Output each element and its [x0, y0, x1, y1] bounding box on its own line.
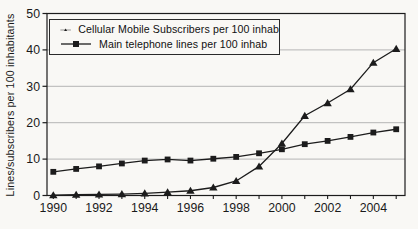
legend-item-mainlines: Main telephone lines per 100 inhab [60, 39, 279, 50]
marker-triangle [301, 112, 309, 119]
marker-square [393, 126, 399, 132]
marker-triangle [392, 45, 400, 52]
marker-square [302, 141, 308, 147]
y-tick-label: 40 [26, 43, 40, 57]
marker-square [165, 157, 171, 163]
y-tick-label: 50 [26, 7, 40, 21]
x-tick-label: 1990 [40, 201, 68, 215]
triangle-marker-icon [60, 25, 71, 35]
marker-square [119, 161, 125, 167]
marker-triangle [369, 59, 377, 66]
x-tick-label: 1998 [223, 201, 251, 215]
x-tick-label: 2004 [360, 201, 388, 215]
marker-triangle [232, 177, 240, 184]
y-tick-label: 20 [26, 116, 40, 130]
y-tick-label: 10 [26, 152, 40, 166]
x-tick-label: 2000 [268, 201, 296, 215]
series-line-0 [53, 49, 396, 195]
marker-square [233, 154, 239, 160]
marker-square [256, 150, 262, 156]
legend-item-cellular: Cellular Mobile Subscribers per 100 inha… [60, 24, 279, 35]
legend: Cellular Mobile Subscribers per 100 inha… [49, 19, 280, 55]
marker-square [73, 166, 79, 172]
series-line-1 [53, 129, 396, 172]
legend-label-mainlines: Main telephone lines per 100 inhab [99, 39, 267, 50]
marker-square [279, 146, 285, 152]
chart-figure: 0102030405019901992199419961998200020022… [0, 0, 418, 229]
marker-square [348, 134, 354, 140]
marker-square [50, 169, 56, 175]
marker-square [142, 158, 148, 164]
marker-square [370, 130, 376, 136]
square-marker-icon [60, 39, 92, 49]
x-tick-label: 1992 [85, 201, 113, 215]
y-tick-label: 30 [26, 80, 40, 94]
marker-square [210, 156, 216, 162]
legend-label-cellular: Cellular Mobile Subscribers per 100 inha… [78, 24, 279, 35]
x-tick-label: 1996 [177, 201, 205, 215]
x-tick-label: 1994 [131, 201, 159, 215]
marker-square [325, 138, 331, 144]
marker-triangle [323, 99, 331, 106]
marker-square [96, 163, 102, 169]
marker-square [188, 158, 194, 164]
y-axis-title: Lines/subscribers per 100 inhabitants [4, 14, 16, 197]
x-tick-label: 2002 [314, 201, 342, 215]
